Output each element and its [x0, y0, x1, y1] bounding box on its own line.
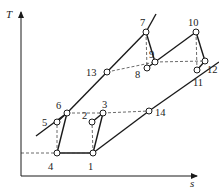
- state-label-2: 2: [82, 110, 87, 121]
- state-label-3: 3: [102, 99, 107, 110]
- state-label-12: 12: [207, 64, 218, 75]
- state-label-14: 14: [155, 107, 166, 118]
- state-label-9: 9: [149, 49, 154, 60]
- t-axis-label: T: [6, 8, 13, 20]
- state-label-4: 4: [48, 161, 54, 172]
- state-point-6: [64, 110, 70, 116]
- dashed-7-8: [146, 32, 147, 68]
- state-point-7: [143, 29, 149, 35]
- state-label-10: 10: [188, 17, 199, 28]
- process-10-12: [196, 32, 205, 61]
- state-point-3: [100, 110, 106, 116]
- dashed-3-14: [103, 111, 149, 113]
- state-label-5: 5: [42, 117, 47, 128]
- dashed-10-11: [196, 32, 197, 70]
- s-axis-label: s: [190, 177, 194, 189]
- state-point-11: [194, 67, 200, 73]
- state-label-1: 1: [88, 161, 93, 172]
- state-point-1: [90, 150, 96, 156]
- t-s-diagram: T s 1234567891011121314: [0, 0, 219, 193]
- state-point-4: [54, 150, 60, 156]
- state-point-10: [193, 29, 199, 35]
- dashed-9-12: [155, 61, 205, 62]
- state-label-13: 13: [86, 67, 97, 78]
- state-label-8: 8: [135, 69, 140, 80]
- state-point-2: [89, 119, 95, 125]
- state-label-7: 7: [140, 17, 145, 28]
- process-9-10: [155, 32, 196, 62]
- state-label-11: 11: [193, 77, 203, 88]
- state-label-6: 6: [56, 100, 61, 111]
- state-point-13: [104, 69, 110, 75]
- isobar-13-7: [107, 32, 146, 72]
- state-point-14: [146, 108, 152, 114]
- dashed-1-2: [92, 122, 93, 153]
- state-point-5: [54, 119, 60, 125]
- state-point-8: [144, 65, 150, 71]
- isobar-6-13: [67, 72, 107, 113]
